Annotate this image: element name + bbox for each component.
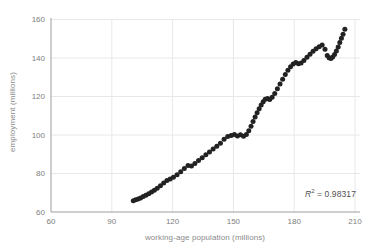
y-tick-label: 160 [32,15,46,24]
data-point [336,45,341,50]
x-tick-label: 90 [107,217,116,226]
data-point [341,32,346,37]
scatter-chart: 60901201501802106080100120140160 employm… [0,0,377,249]
y-tick-label: 80 [36,169,45,178]
data-point [320,42,325,47]
r-squared-annotation: R2 = 0.98317 [305,189,356,199]
x-tick-label: 210 [348,217,362,226]
data-point [342,27,347,32]
x-tick-label: 180 [288,217,302,226]
r-squared-value: 0.98317 [325,189,356,199]
data-point [253,114,258,119]
x-tick-label: 120 [166,217,180,226]
data-point [249,124,254,129]
data-point [275,86,280,91]
y-tick-label: 100 [32,131,46,140]
data-point [272,91,277,96]
data-point [323,47,328,52]
data-points [131,27,348,204]
y-axis-title: employment (millions) [7,37,19,187]
plot-canvas: 60901201501802106080100120140160 [0,0,377,249]
data-point [280,77,285,82]
data-point [278,81,283,86]
data-point [246,128,251,133]
y-tick-label: 120 [32,92,46,101]
x-axis-title: working-age population (millions) [55,233,355,242]
r-squared-equals: = [315,189,325,199]
axes [51,18,360,212]
data-point [251,119,256,124]
y-tick-label: 60 [36,208,45,217]
x-tick-label: 150 [227,217,241,226]
data-point [283,72,288,77]
data-point [218,141,223,146]
y-tick-label: 140 [32,54,46,63]
x-tick-label: 60 [47,217,56,226]
